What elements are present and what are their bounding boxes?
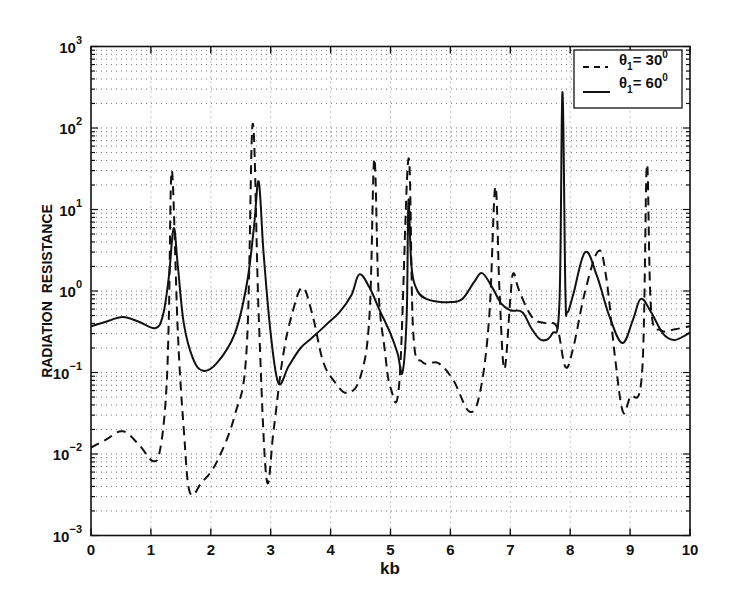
x-tick-label: 2 (207, 541, 215, 558)
y-axis-tick-labels: 10310210110010−110−210−3 (53, 34, 82, 545)
radiation-resistance-chart: 012345678910 10310210110010−110−210−3 kb… (0, 0, 729, 604)
y-tick-label: 100 (59, 278, 82, 300)
x-axis-label: kb (380, 559, 400, 578)
y-tick-label: 102 (59, 115, 82, 137)
data-series (91, 92, 690, 495)
y-axis-label: RADIATION RESISTANCE (39, 204, 55, 378)
x-tick-label: 6 (446, 541, 454, 558)
y-tick-label: 103 (59, 34, 82, 56)
x-tick-label: 3 (267, 541, 275, 558)
y-tick-label: 10−2 (53, 441, 82, 463)
x-tick-label: 0 (87, 541, 95, 558)
x-tick-label: 9 (626, 541, 634, 558)
x-axis-tick-labels: 012345678910 (87, 541, 699, 558)
x-tick-label: 8 (566, 541, 574, 558)
legend: θ1= 300 θ1= 600 (574, 49, 682, 108)
x-tick-label: 1 (147, 541, 155, 558)
x-tick-label: 10 (682, 541, 699, 558)
x-tick-label: 7 (506, 541, 514, 558)
series-theta30-dashed-line (91, 124, 690, 496)
y-tick-label: 101 (59, 197, 82, 219)
y-tick-label: 10−1 (53, 360, 82, 382)
x-tick-label: 4 (326, 541, 335, 558)
y-tick-label: 10−3 (53, 523, 82, 545)
series-theta60-solid-line (91, 92, 690, 384)
x-tick-label: 5 (386, 541, 394, 558)
